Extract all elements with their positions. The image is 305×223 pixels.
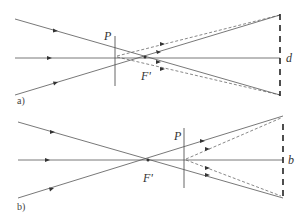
arrow-icon bbox=[205, 147, 210, 151]
screen-label: d bbox=[286, 51, 293, 65]
virtual-ray-upper bbox=[186, 118, 281, 159]
arrow-icon bbox=[160, 42, 165, 46]
screen-label: b bbox=[288, 153, 294, 167]
arrow-icon bbox=[200, 139, 205, 143]
focus-point bbox=[147, 159, 150, 162]
lens-label: P bbox=[173, 129, 182, 143]
panel-b: P F' b b) bbox=[17, 116, 294, 213]
panel-a: P F' d a) bbox=[15, 14, 293, 107]
arrow-icon bbox=[53, 29, 58, 33]
lens-label: P bbox=[103, 29, 112, 43]
ray-bottom bbox=[18, 116, 283, 198]
focus-label: F' bbox=[140, 69, 151, 83]
focus-label: F' bbox=[142, 171, 153, 185]
virtual-ray-upper bbox=[117, 15, 280, 56]
panel-caption: a) bbox=[17, 95, 25, 107]
arrow-icon bbox=[205, 166, 210, 170]
optics-diagram: P F' d a) P F' b b) bbox=[0, 0, 305, 223]
arrow-icon bbox=[49, 188, 54, 192]
arrow-icon bbox=[50, 130, 55, 134]
virtual-ray-lower bbox=[186, 160, 281, 196]
arrow-icon bbox=[47, 56, 52, 60]
arrow-icon bbox=[53, 82, 58, 86]
panel-caption: b) bbox=[17, 201, 25, 213]
focus-point bbox=[144, 56, 147, 59]
arrow-icon bbox=[156, 50, 161, 54]
arrow-icon bbox=[45, 158, 50, 162]
